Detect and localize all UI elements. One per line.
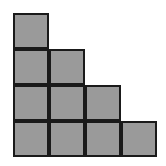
square-r2-c2	[49, 49, 85, 85]
square-r4-c1	[13, 121, 49, 157]
square-r4-c2	[49, 121, 85, 157]
square-r3-c1	[13, 85, 49, 121]
square-r3-c3	[85, 85, 121, 121]
square-r4-c4	[121, 121, 157, 157]
square-r1-c1	[13, 13, 49, 49]
square-r2-c1	[13, 49, 49, 85]
square-r4-c3	[85, 121, 121, 157]
square-r3-c2	[49, 85, 85, 121]
